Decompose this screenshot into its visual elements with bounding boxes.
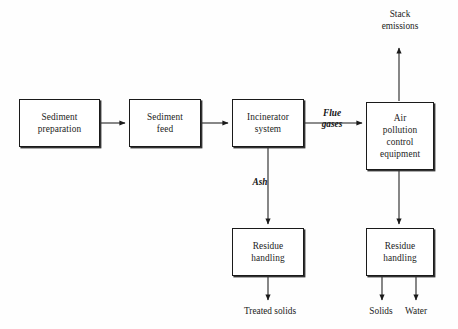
output-label-treated-solids: Treated solids xyxy=(225,306,315,318)
box-residue-handling-ash: Residue handling xyxy=(232,228,304,276)
box-air-pollution-control-equipment: Air pollution control equipment xyxy=(366,102,434,170)
output-label-stack-emissions: Stack emissions xyxy=(366,9,434,32)
box-residue-handling-apc: Residue handling xyxy=(366,228,434,276)
box-incinerator-system: Incinerator system xyxy=(232,99,304,147)
box-label: Residue handling xyxy=(381,240,418,264)
box-label: Residue handling xyxy=(249,240,286,264)
box-label: Sediment feed xyxy=(145,111,185,135)
output-label-water: Water xyxy=(393,306,439,318)
stream-label-ash: Ash xyxy=(243,177,277,188)
process-flow-diagram: Sediment preparation Sediment feed Incin… xyxy=(0,0,458,329)
box-label: Sediment preparation xyxy=(36,111,83,135)
box-label: Air pollution control equipment xyxy=(378,112,422,160)
box-sediment-preparation: Sediment preparation xyxy=(19,99,100,147)
box-label: Incinerator system xyxy=(245,111,291,135)
stream-label-flue-gases: Flue gases xyxy=(310,108,354,130)
box-sediment-feed: Sediment feed xyxy=(129,99,201,147)
